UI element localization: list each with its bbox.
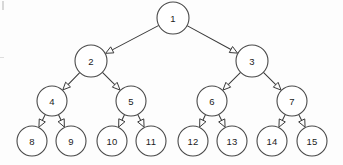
node-label: 14 — [267, 136, 278, 147]
tree-node-9[interactable]: 9 — [56, 126, 86, 156]
edge-line — [122, 115, 124, 120]
tree-edge-n6-to-n12 — [200, 115, 206, 127]
arrow-head-icon — [299, 119, 305, 127]
arrow-head-icon — [200, 119, 206, 127]
node-label: 2 — [88, 56, 93, 67]
node-label: 9 — [68, 136, 73, 147]
tree-edge-n2-to-n4 — [63, 73, 80, 90]
edge-line — [112, 26, 158, 50]
node-label: 12 — [188, 136, 199, 147]
node-label: 10 — [107, 136, 118, 147]
node-label: 7 — [289, 96, 294, 107]
tree-edge-n4-to-n9 — [58, 115, 64, 127]
tree-edge-n1-to-n2 — [106, 26, 159, 54]
tree-edge-n6-to-n13 — [219, 115, 225, 127]
scan-artifact-mid-left — [0, 57, 4, 58]
node-label: 13 — [227, 136, 238, 147]
arrow-head-icon — [106, 47, 114, 54]
edge-line — [68, 73, 79, 85]
edge-line — [299, 115, 302, 121]
edge-line — [219, 115, 222, 121]
edge-line — [228, 73, 240, 85]
tree-node-13[interactable]: 13 — [217, 126, 247, 156]
edge-line — [42, 115, 45, 121]
tree-node-8[interactable]: 8 — [17, 126, 47, 156]
node-label: 6 — [209, 96, 214, 107]
tree-edge-n4-to-n8 — [39, 115, 45, 127]
tree-node-1[interactable]: 1 — [157, 2, 189, 34]
node-label: 1 — [170, 13, 175, 24]
tree-edge-n3-to-n6 — [223, 73, 240, 90]
node-label: 4 — [49, 96, 54, 107]
node-layer: 123456789101112131415 — [17, 2, 327, 156]
tree-node-15[interactable]: 15 — [297, 126, 327, 156]
tree-node-14[interactable]: 14 — [257, 126, 287, 156]
tree-node-3[interactable]: 3 — [236, 45, 268, 77]
edge-line — [203, 115, 205, 120]
scan-artifact-top-left — [2, 1, 4, 10]
node-label: 5 — [128, 96, 133, 107]
binary-tree-diagram: 123456789101112131415 — [0, 0, 343, 165]
edge-line — [59, 115, 61, 120]
tree-edge-n7-to-n15 — [299, 115, 305, 127]
edge-line — [138, 115, 141, 121]
tree-edge-n5-to-n11 — [138, 115, 144, 127]
arrow-head-icon — [58, 119, 64, 127]
edge-line — [264, 73, 276, 85]
tree-node-11[interactable]: 11 — [136, 126, 166, 156]
arrow-head-icon — [219, 119, 225, 127]
tree-node-12[interactable]: 12 — [178, 126, 208, 156]
tree-edge-n1-to-n3 — [187, 26, 237, 53]
tree-edge-n7-to-n14 — [279, 115, 285, 127]
tree-node-4[interactable]: 4 — [37, 86, 67, 116]
node-label: 3 — [249, 56, 254, 67]
tree-node-6[interactable]: 6 — [197, 86, 227, 116]
tree-node-2[interactable]: 2 — [75, 45, 107, 77]
edge-line — [103, 73, 115, 85]
arrow-head-icon — [119, 119, 125, 127]
node-label: 11 — [146, 136, 156, 147]
tree-node-5[interactable]: 5 — [116, 86, 146, 116]
tree-canvas: 123456789101112131415 — [0, 0, 343, 165]
tree-node-7[interactable]: 7 — [277, 86, 307, 116]
arrow-head-icon — [39, 119, 45, 127]
node-label: 15 — [307, 136, 318, 147]
node-label: 8 — [29, 136, 34, 147]
tree-edge-n5-to-n10 — [119, 115, 125, 127]
tree-edge-n2-to-n5 — [103, 73, 120, 90]
edge-layer — [39, 26, 305, 127]
edge-line — [187, 26, 230, 50]
arrow-head-icon — [138, 119, 144, 127]
edge-line — [282, 115, 285, 121]
tree-edge-n3-to-n7 — [264, 73, 281, 90]
arrow-head-icon — [279, 119, 285, 127]
arrow-head-icon — [229, 47, 237, 54]
tree-node-10[interactable]: 10 — [97, 126, 127, 156]
